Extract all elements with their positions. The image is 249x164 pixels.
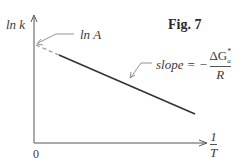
slope-annotation: slope = − ΔG*a R — [156, 48, 231, 81]
ln-a-leader — [38, 34, 74, 43]
x-label-numerator: 1 — [210, 130, 217, 143]
x-label-denominator: T — [210, 146, 217, 159]
delta-g-sup: * — [227, 47, 231, 56]
origin-label: 0 — [33, 148, 39, 160]
slope-numerator: ΔG*a — [210, 48, 231, 65]
ln-a-annotation: ln A — [80, 28, 101, 41]
slope-leader — [131, 63, 152, 77]
delta-g-sub: a — [227, 57, 231, 65]
slope-prefix: slope = − — [156, 58, 208, 71]
slope-fraction: ΔG*a R — [210, 48, 231, 81]
slope-denominator: R — [216, 68, 224, 81]
y-axis-label: ln k — [6, 18, 25, 31]
extrapolation-dashed-line — [36, 45, 59, 55]
figure-title: Fig. 7 — [168, 18, 201, 32]
delta-g: ΔG — [210, 48, 228, 63]
x-axis-label: 1 T — [210, 130, 217, 159]
